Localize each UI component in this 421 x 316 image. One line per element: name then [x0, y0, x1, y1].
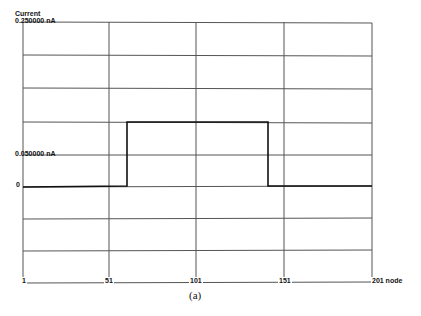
y-tick-zero: 0: [16, 181, 20, 188]
y-tick-mid: 0.050000 nA: [15, 150, 55, 157]
y-tick-top: 0.250000 nA: [15, 17, 55, 24]
chart-plot: [0, 0, 421, 316]
x-tick-151: 151: [278, 277, 292, 284]
y-axis-title: Current: [15, 10, 40, 17]
x-tick-101: 101: [189, 277, 203, 284]
x-tick-201: 201 node: [371, 277, 403, 284]
figure-caption: (a): [189, 289, 201, 301]
x-tick-1: 1: [21, 277, 27, 284]
grid: [23, 22, 372, 283]
x-tick-51: 51: [104, 277, 114, 284]
